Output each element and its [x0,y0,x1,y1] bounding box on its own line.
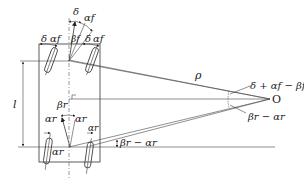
label-beta-r: βr [56,99,69,110]
label-l: l [13,98,17,111]
arc-beta-r [61,115,75,116]
label-alpha-f-right: αf [93,33,106,44]
arc-at-o [228,91,229,108]
right-angle-marker [72,95,76,99]
front-right-wheel [84,44,101,76]
label-alpha-r-center: αr [75,113,88,124]
label-alpha-r-bottom: αr [52,146,65,157]
vehicle-kinematics-diagram: l δ αf δ αf βf δ αf βr [0,0,304,183]
label-rear-angle: βr − αr [247,111,286,122]
ray-rear-2 [69,99,270,147]
label-alpha-f-left: αf [50,33,63,44]
label-alpha-f-top: αf [84,12,97,23]
label-delta-right: δ [85,33,91,44]
arc-alpha-top [81,23,92,31]
label-alpha-r-left: αr [45,113,58,124]
label-front-angle: δ + αf − βf [250,80,304,91]
leader-front-angle [230,86,250,94]
label-delta-left: δ [41,33,47,44]
label-rear-angle-left: βr − αr [119,137,158,148]
ray-rho [69,60,270,99]
label-beta-f: βf [70,34,81,44]
rear-wheel-direction [70,120,75,147]
front-left-wheel [43,44,60,76]
ray-rear [90,99,270,146]
label-delta-top: δ [73,6,79,17]
label-center-o: O [272,93,281,106]
label-rho: ρ [194,69,202,82]
label-alpha-r-right: αr [88,123,99,133]
